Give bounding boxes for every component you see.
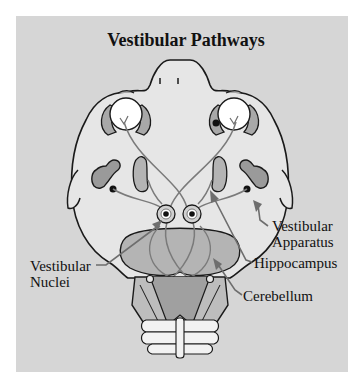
vestibular-diagram <box>0 0 362 383</box>
label-vestibular-apparatus: Vestibular Apparatus <box>272 218 334 250</box>
label-vestibular-apparatus-line1: Vestibular <box>272 218 334 234</box>
label-vestibular-nuclei-line2: Nuclei <box>30 274 91 290</box>
label-vestibular-apparatus-line2: Apparatus <box>272 234 334 250</box>
neck-and-spine <box>132 276 228 359</box>
cerebellum-shape <box>120 226 240 280</box>
label-vestibular-nuclei: Vestibular Nuclei <box>30 258 91 290</box>
label-vestibular-nuclei-line1: Vestibular <box>30 258 91 274</box>
label-hippocampus: Hippocampus <box>254 255 337 271</box>
label-cerebellum: Cerebellum <box>243 288 313 304</box>
